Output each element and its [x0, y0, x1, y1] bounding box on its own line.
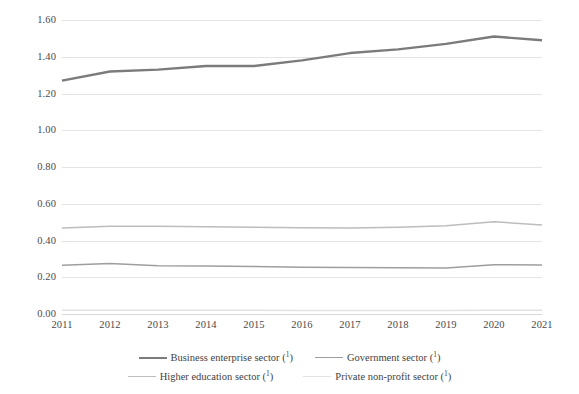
legend-label-business-enterprise-sector: Business enterprise sector (1) [171, 352, 293, 364]
legend-item-government-sector[interactable]: Government sector (1) [315, 352, 441, 364]
legend-swatch-government-sector [315, 357, 343, 358]
series-layer [62, 20, 542, 314]
y-axis-tick-label: 1.20 [4, 89, 56, 100]
x-axis-tick-label: 2011 [51, 319, 72, 330]
legend-item-private-non-profit-sector[interactable]: Private non-profit sector (1) [303, 371, 451, 383]
legend-label-private-non-profit-sector: Private non-profit sector (1) [335, 371, 451, 383]
series-line [62, 37, 542, 81]
x-axis-tick-label: 2018 [387, 319, 408, 330]
series-line [62, 263, 542, 267]
y-axis-tick-label: 1.60 [4, 15, 56, 26]
x-axis-tick-label: 2012 [99, 319, 120, 330]
y-axis-tick-label: 0.60 [4, 199, 56, 210]
legend-item-business-enterprise-sector[interactable]: Business enterprise sector (1) [139, 352, 293, 364]
legend-label-higher-education-sector: Higher education sector (1) [160, 371, 274, 383]
x-axis-tick-label: 2020 [483, 319, 504, 330]
y-axis-tick-label: 1.00 [4, 125, 56, 136]
x-axis-tick-label: 2017 [339, 319, 360, 330]
legend-label-government-sector: Government sector (1) [347, 352, 441, 364]
x-axis-tick-label: 2016 [291, 319, 312, 330]
x-axis: 2011201220132014201520162017201820192020… [62, 319, 542, 335]
legend-swatch-private-non-profit-sector [303, 376, 331, 377]
legend-swatch-higher-education-sector [128, 376, 156, 377]
x-axis-tick-label: 2014 [195, 319, 216, 330]
y-axis-tick-label: 0.40 [4, 236, 56, 247]
line-chart: 1.601.401.201.000.800.600.400.200.00 201… [0, 0, 579, 394]
gridline [62, 314, 542, 315]
legend-row-1: Business enterprise sector (1) Governmen… [0, 348, 579, 367]
legend-item-higher-education-sector[interactable]: Higher education sector (1) [128, 371, 274, 383]
x-axis-tick-label: 2015 [243, 319, 264, 330]
y-axis-tick-label: 1.40 [4, 52, 56, 63]
y-axis-tick-label: 0.20 [4, 272, 56, 283]
legend-swatch-business-enterprise-sector [139, 357, 167, 359]
series-line [62, 222, 542, 228]
x-axis-tick-label: 2013 [147, 319, 168, 330]
plot-area [62, 20, 542, 314]
y-axis: 1.601.401.201.000.800.600.400.200.00 [0, 20, 56, 314]
legend-row-2: Higher education sector (1) Private non-… [0, 367, 579, 386]
x-axis-tick-label: 2021 [531, 319, 552, 330]
y-axis-tick-label: 0.80 [4, 162, 56, 173]
x-axis-tick-label: 2019 [435, 319, 456, 330]
y-axis-tick-label: 0.00 [4, 309, 56, 320]
chart-legend: Business enterprise sector (1) Governmen… [0, 348, 579, 386]
